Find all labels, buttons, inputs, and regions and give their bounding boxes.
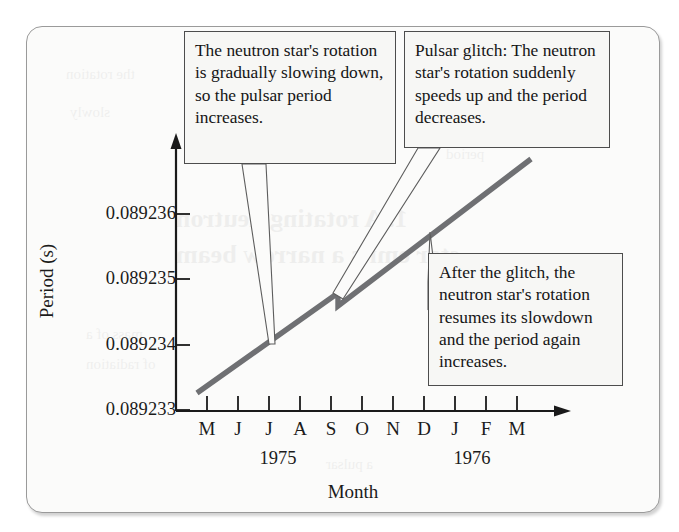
- y-tick-marks: [176, 214, 190, 410]
- y-axis-arrowhead: [171, 133, 182, 149]
- year-label-1976: 1976: [427, 448, 517, 469]
- callout-slowdown: The neutron star's rotation is gradually…: [184, 31, 396, 164]
- callout-after: After the glitch, the neutron star's rot…: [428, 253, 623, 386]
- x-tick-label-4: S: [316, 418, 346, 440]
- x-tick-label-8: J: [440, 418, 470, 440]
- x-axis: [176, 406, 571, 417]
- x-axis-title: Month: [303, 481, 403, 503]
- x-tick-marks: [207, 396, 517, 411]
- y-tick-label-3: 0.089233: [66, 399, 176, 420]
- figure-page: the rotation slowly 1. A rotating neutro…: [0, 0, 679, 532]
- y-tick-label-2: 0.089234: [66, 334, 176, 355]
- x-tick-label-1: J: [223, 418, 253, 440]
- y-tick-label-1: 0.089235: [66, 268, 176, 289]
- x-axis-arrowhead: [554, 406, 571, 417]
- y-axis-title: Period (s): [36, 221, 58, 341]
- year-label-1975: 1975: [233, 448, 323, 469]
- x-tick-label-5: O: [347, 418, 377, 440]
- x-tick-label-7: D: [409, 418, 439, 440]
- y-tick-label-0: 0.089236: [66, 203, 176, 224]
- x-tick-label-10: M: [502, 418, 532, 440]
- x-tick-label-0: M: [192, 418, 222, 440]
- x-tick-label-9: F: [471, 418, 501, 440]
- callout-glitch: Pulsar glitch: The neutron star's rotati…: [404, 31, 610, 148]
- x-tick-label-6: N: [378, 418, 408, 440]
- leader-glitch: [333, 148, 440, 299]
- x-tick-label-3: A: [285, 418, 315, 440]
- x-tick-label-2: J: [254, 418, 284, 440]
- leader-slowdown: [242, 164, 275, 344]
